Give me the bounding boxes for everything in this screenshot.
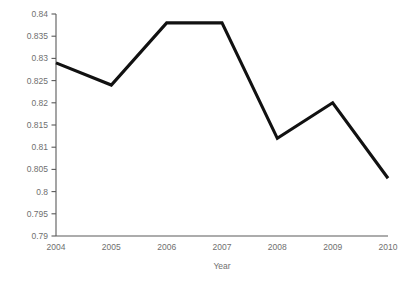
x-tick-label: 2009 [323,242,342,252]
x-tick-label: 2005 [102,242,121,252]
y-tick-label: 0.82 [31,98,48,108]
chart-container: 0.790.7950.80.8050.810.8150.820.8250.830… [0,0,401,286]
y-tick-label: 0.81 [31,142,48,152]
x-tick-label: 2006 [157,242,176,252]
x-tick-label: 2010 [379,242,398,252]
y-tick-label: 0.8 [36,187,48,197]
line-chart: 0.790.7950.80.8050.810.8150.820.8250.830… [0,0,401,286]
y-tick-label: 0.79 [31,231,48,241]
x-tick-label: 2007 [213,242,232,252]
y-tick-label: 0.83 [31,53,48,63]
y-tick-label: 0.825 [27,76,49,86]
x-tick-label: 2008 [268,242,287,252]
x-tick-label: 2004 [47,242,66,252]
y-tick-label: 0.84 [31,9,48,19]
y-tick-label: 0.835 [27,31,49,41]
y-tick-label: 0.815 [27,120,49,130]
y-tick-label: 0.805 [27,164,49,174]
y-tick-label: 0.795 [27,209,49,219]
x-axis-title: Year [213,261,230,271]
